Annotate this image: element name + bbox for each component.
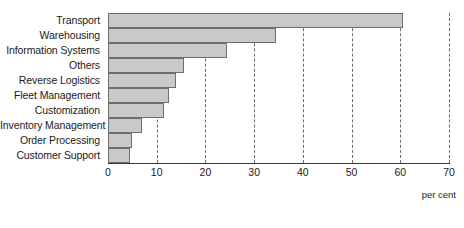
category-label: Order Processing [0,133,104,148]
bar-inventory-management [108,118,142,133]
bar-row [108,148,449,163]
bar-order-processing [108,133,132,148]
category-label: Warehousing [0,28,104,43]
gridline [449,13,450,163]
bar-transport [108,13,403,28]
bar-customer-support [108,148,130,163]
bar-row [108,28,449,43]
bar-others [108,58,184,73]
x-axis-unit-label: per cent [422,189,456,200]
x-axis-line [108,163,450,164]
category-label: Transport [0,13,104,28]
bar-series [108,13,449,163]
x-axis-tick-label: 0 [105,166,111,178]
category-label: Reverse Logistics [0,73,104,88]
category-label: Others [0,58,104,73]
x-axis-tick-label: 50 [346,166,358,178]
x-axis-tick-label: 20 [200,166,212,178]
bar-row [108,58,449,73]
x-axis-tick-label: 40 [297,166,309,178]
x-axis-tick-label: 30 [248,166,260,178]
bar-row [108,13,449,28]
bar-row [108,118,449,133]
x-axis-tick-label: 70 [443,166,455,178]
x-axis-tick-labels: 010203040506070 [108,166,449,182]
bar-row [108,103,449,118]
x-axis-tick-label: 60 [394,166,406,178]
category-label: Customer Support [0,148,104,163]
category-label: Inventory Management [0,118,104,133]
category-label: Customization [0,103,104,118]
bar-row [108,43,449,58]
category-label: Information Systems [0,43,104,58]
category-axis-labels: Transport Warehousing Information System… [0,13,104,163]
bar-fleet-management [108,88,169,103]
category-label: Fleet Management [0,88,104,103]
bar-reverse-logistics [108,73,176,88]
bar-information-systems [108,43,227,58]
bar-customization [108,103,164,118]
bar-warehousing [108,28,276,43]
bar-row [108,88,449,103]
bar-row [108,73,449,88]
plot-area [108,13,449,163]
bar-chart: Transport Warehousing Information System… [0,0,464,228]
x-axis-tick-label: 10 [151,166,163,178]
bar-row [108,133,449,148]
